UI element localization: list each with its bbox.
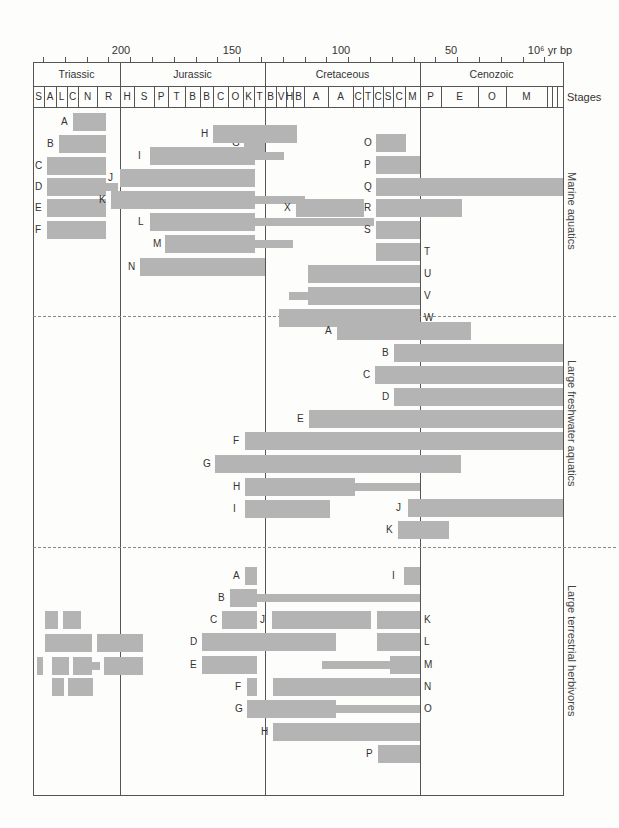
period-triassic: Triassic [33, 66, 120, 82]
range-bar [376, 156, 420, 174]
range-bar-extension [106, 183, 118, 191]
axis-tick-label-200: 200 [112, 44, 130, 56]
bar-label: C [363, 369, 370, 381]
bar-label: K [424, 614, 431, 626]
stage-cell: O [228, 88, 243, 106]
stage-cell: S [134, 88, 154, 106]
bar-label: F [233, 435, 239, 447]
bar-label: I [138, 150, 141, 162]
range-bar [68, 678, 93, 696]
bar-label: C [210, 614, 217, 626]
bar-label: H [261, 726, 268, 738]
bar-label: N [128, 261, 135, 273]
stage-cell: S [383, 88, 393, 106]
stage-cell: S [33, 88, 44, 106]
group-label-marine-aquatics: Marine aquatics [566, 172, 578, 250]
stage-cell: T [168, 88, 185, 106]
range-bar [376, 221, 420, 239]
axis-line [33, 62, 564, 63]
cretaceous-cenozoic-boundary [420, 62, 421, 796]
range-bar [408, 499, 563, 517]
stage-cell: C [373, 88, 383, 106]
range-bar [222, 611, 257, 629]
range-bar [150, 213, 255, 231]
range-bar [63, 611, 81, 629]
stages-label: Stages [567, 91, 601, 103]
period-row-divider [33, 86, 564, 87]
stage-cell: N [78, 88, 97, 106]
range-bar [245, 567, 257, 585]
bar-label: A [325, 325, 332, 337]
bar-label: M [424, 659, 432, 671]
bar-label: M [153, 238, 161, 250]
bar-label: E [35, 202, 42, 214]
bar-label: G [203, 458, 211, 470]
stage-row-divider [33, 107, 564, 108]
range-bar [376, 199, 462, 217]
stage-cell: A [44, 88, 56, 106]
range-bar-extension [257, 594, 420, 602]
bar-label: C [35, 160, 42, 172]
range-bar [213, 125, 297, 143]
bar-label: L [138, 216, 144, 228]
jurassic-cretaceous-boundary [265, 62, 266, 796]
period-cretaceous: Cretaceous [265, 66, 420, 82]
stage-cell: M [506, 88, 547, 106]
range-bar [377, 611, 420, 629]
range-bar [394, 344, 563, 362]
chart-left-border [33, 62, 34, 796]
group-label-freshwater-aquatics: Large freshwater aquatics [566, 360, 578, 487]
bar-label: I [392, 570, 395, 582]
bar-label: D [35, 181, 42, 193]
period-cenozoic: Cenozoic [420, 66, 563, 82]
range-bar-extension [255, 218, 374, 226]
stage-cell: T [363, 88, 373, 106]
stage-cell: E [441, 88, 478, 106]
range-bar [377, 633, 420, 651]
range-bar [273, 678, 420, 696]
range-bar [202, 656, 257, 674]
range-bar [272, 611, 371, 629]
stage-cell: L [56, 88, 67, 106]
bar-label: H [233, 481, 240, 493]
bar-label: G [235, 703, 243, 715]
range-bar [165, 235, 255, 253]
axis-tick-label-50: 50 [445, 44, 457, 56]
stage-cell: H [120, 88, 134, 106]
range-bar [202, 633, 336, 651]
range-chart: 200 150 100 50 10⁶ yr bp Triassic Jurass… [0, 0, 619, 828]
range-bar [230, 589, 257, 607]
range-bar [308, 287, 420, 305]
range-bar-extension [322, 661, 390, 669]
stage-cell: B [185, 88, 200, 106]
range-bar [296, 199, 364, 217]
stage-cell: O [478, 88, 506, 106]
bar-label: A [233, 570, 240, 582]
stage-cell: V [276, 88, 286, 106]
bar-label: E [190, 659, 197, 671]
bar-label: N [424, 681, 431, 693]
bar-label: L [424, 636, 430, 648]
range-bar [47, 157, 106, 175]
stage-cell: K [243, 88, 254, 106]
chart-right-border [563, 62, 564, 796]
range-bar [245, 500, 330, 518]
range-bar [59, 135, 106, 153]
range-bar-extension [336, 705, 420, 713]
range-bar [337, 322, 471, 340]
axis-tick-label-150: 150 [223, 44, 241, 56]
stage-cell: M [405, 88, 420, 106]
range-bar [47, 221, 106, 239]
bar-label: D [190, 636, 197, 648]
range-bar [394, 388, 563, 406]
range-bar [398, 521, 449, 539]
range-bar-extension [355, 483, 420, 491]
range-bar [376, 178, 563, 196]
range-bar [215, 455, 461, 473]
range-bar [97, 634, 143, 652]
range-bar [247, 700, 336, 718]
stage-cell: C [353, 88, 363, 106]
stage-cell: T [254, 88, 265, 106]
bar-label: U [424, 268, 431, 280]
range-bar [45, 611, 58, 629]
